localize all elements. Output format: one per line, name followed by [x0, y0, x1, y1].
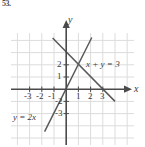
y-tick-label--2: -2	[55, 97, 63, 106]
x-tick-label-3: 3	[100, 92, 105, 101]
x-tick-label-2: 2	[88, 92, 93, 101]
coordinate-graph	[0, 0, 145, 147]
x-tick-label--3: -3	[24, 92, 32, 101]
x-tick-label-1: 1	[76, 92, 81, 101]
figure-container: 53.	[0, 0, 145, 147]
x-axis-label: x	[134, 84, 138, 94]
y-axis-label: y	[68, 15, 72, 25]
y-tick-label--3: -3	[55, 109, 63, 118]
y-tick-label-2: 2	[57, 60, 62, 69]
equation-label-y-equals-2x: y = 2x	[13, 113, 36, 122]
x-tick-label--2: -2	[36, 92, 44, 101]
equation-label-x-plus-y: x + y = 3	[86, 60, 120, 69]
y-tick-label-1: 1	[57, 72, 62, 81]
